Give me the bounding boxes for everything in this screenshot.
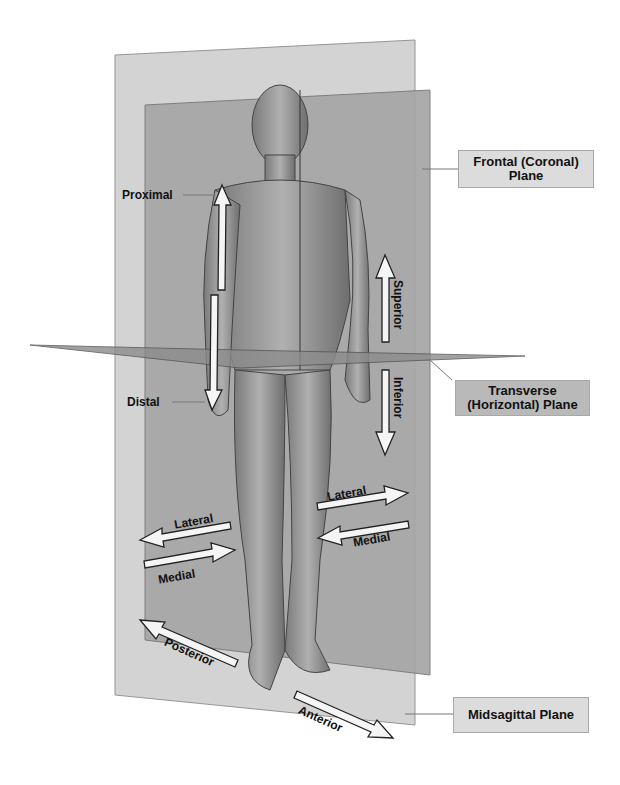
- superior-label: Superior: [391, 280, 405, 329]
- transverse-plane-callout: Transverse (Horizontal) Plane: [455, 380, 590, 416]
- midsagittal-plane-callout: Midsagittal Plane: [453, 697, 589, 733]
- transverse-plane-label-line1: Transverse: [456, 384, 589, 398]
- inferior-label: Inferior: [391, 377, 405, 418]
- frontal-plane-callout: Frontal (Coronal) Plane: [458, 150, 594, 188]
- transverse-plane-label-line2: (Horizontal) Plane: [456, 398, 589, 412]
- midsagittal-plane-label: Midsagittal Plane: [454, 708, 588, 722]
- frontal-plane-label-line1: Frontal (Coronal): [459, 155, 593, 169]
- proximal-label: Proximal: [122, 188, 173, 202]
- frontal-plane-label-line2: Plane: [459, 169, 593, 183]
- distal-label: Distal: [127, 395, 160, 409]
